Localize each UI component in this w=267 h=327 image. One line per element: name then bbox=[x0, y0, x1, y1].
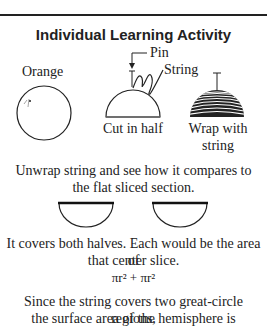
orange-label: Orange bbox=[22, 64, 63, 80]
right-half-bowl-icon bbox=[152, 203, 208, 227]
pin-label: Pin bbox=[150, 45, 169, 61]
covers-text-line2: that center slice. bbox=[0, 252, 267, 269]
wrapped-hemisphere-icon bbox=[186, 73, 248, 117]
since-text-line2: the surface area of the hemisphere is bbox=[0, 310, 267, 327]
wrap-label-line1: Wrap with bbox=[188, 121, 248, 137]
string-label: String bbox=[164, 62, 198, 78]
cut-in-half-label: Cut in half bbox=[103, 121, 163, 137]
unwrap-text-line2: the flat sliced section. bbox=[0, 179, 267, 196]
area-formula: πr² + πr² bbox=[0, 269, 267, 286]
cut-hemisphere-icon bbox=[106, 90, 160, 117]
pin-icon bbox=[129, 53, 147, 87]
left-half-bowl-icon bbox=[58, 203, 114, 227]
unwrap-text-line1: Unwrap string and see how it compares to bbox=[0, 162, 267, 179]
orange-icon bbox=[17, 86, 71, 140]
wrap-label-line2: string bbox=[188, 138, 248, 154]
